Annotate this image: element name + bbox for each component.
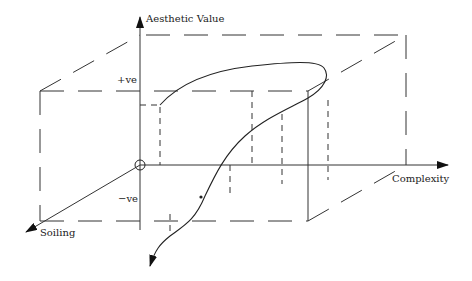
back-box	[146, 35, 406, 165]
axes	[26, 17, 448, 232]
response-curve	[150, 63, 326, 267]
vertical-axis-label: Aesthetic Value	[145, 13, 225, 24]
depth-axis-label: Soiling	[40, 227, 76, 238]
depth-edges	[40, 35, 406, 221]
negative-marker: −ve	[118, 193, 138, 204]
front-box	[40, 91, 308, 221]
projection-lines	[140, 91, 328, 236]
positive-marker: +ve	[117, 74, 137, 85]
aesthetic-complexity-soiling-diagram: Aesthetic Value Complexity Soiling +ve −…	[0, 0, 472, 281]
curve-point	[199, 195, 202, 198]
horizontal-axis-label: Complexity	[392, 173, 450, 184]
